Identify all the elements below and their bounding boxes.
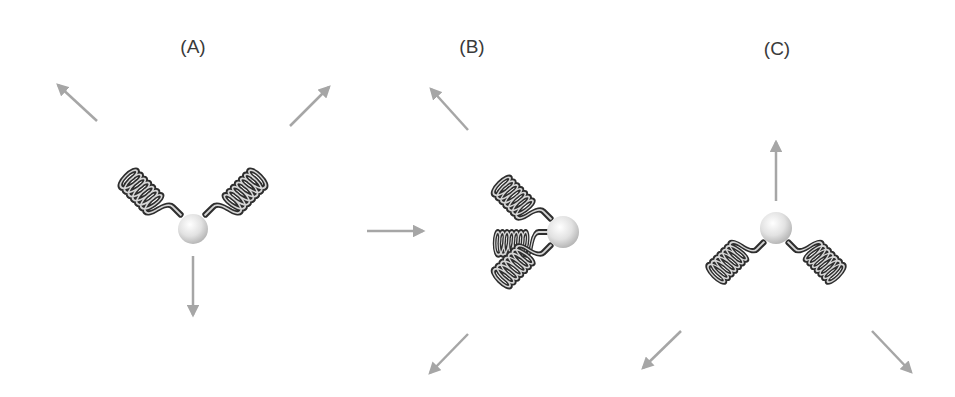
ball-icon xyxy=(547,216,579,248)
arrow-icon xyxy=(643,331,681,368)
arrow-icon xyxy=(872,331,911,372)
panel-a xyxy=(58,85,329,315)
ball-icon xyxy=(178,214,208,244)
arrow-icon xyxy=(58,85,97,121)
arrow-icon xyxy=(431,89,468,130)
spring-diagram xyxy=(0,0,955,397)
ball-icon xyxy=(760,212,792,244)
spring-icon xyxy=(118,168,181,231)
spring-icon xyxy=(706,226,764,284)
spring-icon xyxy=(205,168,268,231)
spring-icon xyxy=(788,226,846,284)
panel-b xyxy=(367,89,579,373)
arrow-icon xyxy=(430,334,468,373)
spring-icon xyxy=(491,175,551,235)
panel-c xyxy=(643,142,911,372)
arrow-icon xyxy=(290,87,329,126)
